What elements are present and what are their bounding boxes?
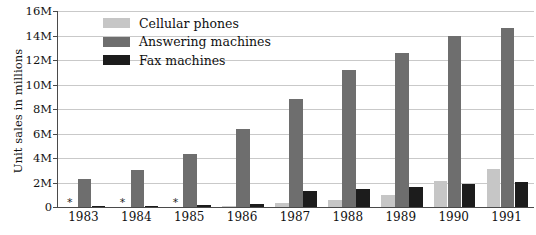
y-axis-tickmark — [53, 158, 58, 159]
x-axis-tick-label: 1985 — [163, 210, 216, 224]
x-axis-tick-label: 1983 — [57, 210, 110, 224]
y-axis-tickmark — [53, 11, 58, 12]
x-axis-tick-label: 1987 — [269, 210, 322, 224]
chart-legend: Cellular phonesAnswering machinesFax mac… — [103, 14, 271, 70]
legend-color-swatch — [103, 18, 130, 28]
bar — [275, 203, 289, 207]
y-axis-tickmark — [53, 207, 58, 208]
bar — [356, 189, 370, 207]
x-axis-tick-label: 1986 — [216, 210, 269, 224]
bar — [131, 170, 145, 207]
legend-color-swatch — [103, 37, 130, 47]
bar — [487, 169, 501, 207]
bar — [236, 129, 250, 207]
legend-label: Cellular phones — [139, 16, 239, 31]
bar — [448, 36, 462, 208]
bar — [342, 70, 356, 207]
y-axis-tick-label: 4M — [18, 151, 52, 165]
bar — [289, 99, 303, 207]
bar — [434, 181, 448, 207]
bar — [409, 187, 423, 207]
y-axis-tickmark — [53, 109, 58, 110]
x-axis-tick-label: 1984 — [110, 210, 163, 224]
bar-group — [275, 11, 317, 207]
legend-item: Cellular phones — [103, 14, 271, 33]
bar-group — [381, 11, 423, 207]
bar — [250, 204, 264, 207]
y-axis-tick-label: 8M — [18, 102, 52, 116]
x-axis-tick-labels: 198319841985198619871988198919901991 — [57, 210, 533, 232]
bar-group — [487, 11, 529, 207]
x-axis-tick-label: 1990 — [427, 210, 480, 224]
bar — [197, 205, 211, 207]
bar — [78, 179, 92, 207]
x-axis-tick-label: 1989 — [374, 210, 427, 224]
y-axis-tick-label: 16M — [18, 4, 52, 18]
legend-item: Fax machines — [103, 51, 271, 70]
legend-label: Answering machines — [139, 34, 271, 49]
legend-color-swatch — [103, 55, 130, 65]
bar — [395, 53, 409, 207]
no-data-asterisk-marker: * — [67, 198, 73, 207]
no-data-asterisk-marker: * — [120, 198, 126, 207]
no-data-asterisk-marker: * — [173, 198, 179, 207]
bar — [145, 206, 159, 207]
bar — [381, 195, 395, 207]
bar — [222, 206, 236, 207]
bar-group: * — [64, 11, 106, 207]
bar — [501, 28, 515, 207]
legend-label: Fax machines — [139, 53, 226, 68]
y-axis-tickmark — [53, 60, 58, 61]
bar — [92, 206, 106, 207]
bar-group — [434, 11, 476, 207]
legend-item: Answering machines — [103, 33, 271, 52]
bar — [462, 184, 476, 207]
y-axis-tickmark — [53, 183, 58, 184]
y-axis-tick-label: 2M — [18, 176, 52, 190]
bar — [183, 154, 197, 207]
y-axis-tick-label: 10M — [18, 78, 52, 92]
y-axis-tick-label: 0 — [18, 200, 52, 214]
bar — [328, 200, 342, 207]
y-axis-tickmark — [53, 134, 58, 135]
y-axis-tick-labels: 02M4M6M8M10M12M14M16M — [18, 0, 52, 235]
bar — [303, 191, 317, 207]
y-axis-tick-label: 12M — [18, 53, 52, 67]
y-axis-tick-label: 14M — [18, 29, 52, 43]
x-axis-tick-label: 1991 — [480, 210, 533, 224]
bar-group — [328, 11, 370, 207]
bar — [515, 182, 529, 207]
bar-chart: Unit sales in millions 02M4M6M8M10M12M14… — [0, 0, 536, 235]
x-axis-tick-label: 1988 — [321, 210, 374, 224]
y-axis-tickmark — [53, 85, 58, 86]
y-axis-tickmark — [53, 36, 58, 37]
y-axis-tick-label: 6M — [18, 127, 52, 141]
